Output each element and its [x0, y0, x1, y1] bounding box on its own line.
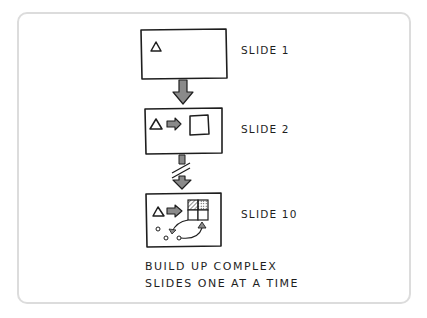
slide-2-box	[145, 108, 222, 154]
slide-10-label: SLIDE 10	[241, 208, 298, 220]
down-arrow-icon	[173, 80, 193, 104]
slide-10-box	[146, 193, 221, 247]
slide-1-box	[141, 29, 227, 79]
caption-line-2: SLIDES ONE AT A TIME	[145, 275, 299, 292]
grid-icon	[188, 200, 208, 220]
caption-line-1: BUILD UP COMPLEX	[145, 258, 299, 275]
broken-arrow-icon	[172, 155, 191, 189]
slide-2-label: SLIDE 2	[241, 123, 290, 135]
caption: BUILD UP COMPLEX SLIDES ONE AT A TIME	[145, 258, 299, 292]
slide-1-label: SLIDE 1	[241, 44, 290, 56]
